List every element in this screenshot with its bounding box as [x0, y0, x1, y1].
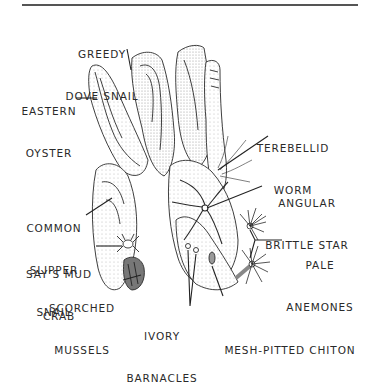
label-pale-anemones: PALE ANEMONES [280, 230, 360, 328]
ivory-barnacle-1 [186, 244, 191, 249]
label-line: COMMON [20, 221, 88, 235]
label-line: OYSTER [20, 146, 78, 160]
label-line: IVORY [124, 329, 200, 343]
label-scorched-mussels: SCORCHED MUSSELS [44, 273, 120, 371]
label-line: TEREBELLID [255, 141, 331, 155]
label-line: ANGULAR [262, 196, 352, 210]
label-line: MUSSELS [44, 343, 120, 357]
chiton [209, 252, 215, 264]
label-mesh-pitted-chiton: MESH-PITTED CHITON [218, 315, 362, 371]
label-line: ANEMONES [280, 300, 360, 314]
label-line: GREEDY [60, 47, 144, 61]
label-line: PALE [280, 258, 360, 272]
label-line: MESH-PITTED CHITON [218, 343, 362, 357]
label-line: SCORCHED [44, 301, 120, 315]
label-line: BARNACLES [124, 371, 200, 385]
label-eastern-oyster: EASTERN OYSTER [20, 76, 78, 174]
ivory-barnacle-2 [194, 248, 199, 253]
label-line: EASTERN [20, 104, 78, 118]
label-ivory-barnacles: IVORY BARNACLES [124, 301, 200, 386]
